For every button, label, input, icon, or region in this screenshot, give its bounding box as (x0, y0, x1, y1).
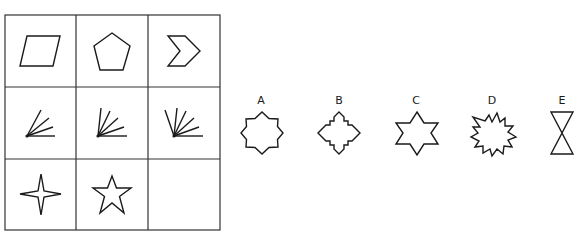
puzzle-canvas: A B C D E (0, 0, 580, 235)
chevron-shape (168, 36, 200, 66)
option-a[interactable]: A (241, 94, 283, 154)
four-point-star-shape (20, 174, 61, 215)
option-d[interactable]: D (471, 94, 516, 156)
hourglass-shape (551, 112, 573, 154)
empty-answer-cell (149, 160, 219, 229)
pentagon-shape (94, 33, 130, 70)
option-e[interactable]: E (551, 94, 573, 154)
option-d-label: D (488, 94, 496, 107)
six-point-star-shape (396, 112, 438, 155)
fan-4-lines (25, 110, 55, 138)
option-b[interactable]: B (318, 94, 360, 154)
fan-5-lines (96, 108, 127, 138)
five-point-star-shape (93, 176, 131, 213)
option-c-label: C (412, 94, 420, 107)
option-c[interactable]: C (396, 94, 438, 155)
option-b-label: B (335, 94, 343, 107)
fan-6-lines (165, 108, 203, 138)
option-a-label: A (257, 94, 265, 107)
eight-point-star-shape (241, 112, 283, 154)
stepped-diamond-shape (318, 112, 360, 154)
starburst-shape (471, 113, 516, 156)
parallelogram-shape (20, 36, 60, 66)
option-e-label: E (559, 94, 566, 107)
